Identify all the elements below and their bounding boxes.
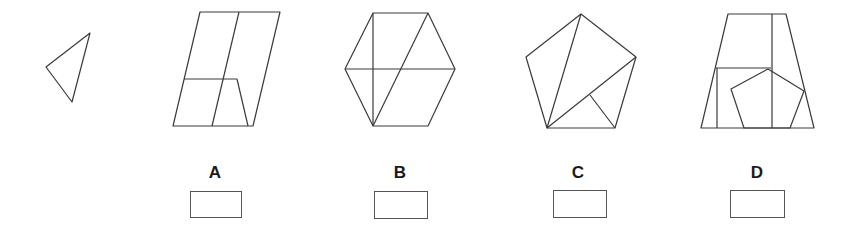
option-a-label: A (195, 163, 235, 183)
option-d-figure (701, 14, 814, 128)
option-d-answer-box[interactable] (730, 190, 785, 218)
option-a-figure (173, 12, 280, 126)
option-b-answer-box[interactable] (374, 191, 428, 219)
option-b-label: B (380, 163, 420, 183)
option-d-label: D (737, 163, 777, 183)
option-b-figure (345, 13, 455, 126)
option-a-answer-box[interactable] (190, 191, 242, 218)
reference-triangle (46, 33, 90, 102)
option-c-label: C (558, 163, 598, 183)
option-c-answer-box[interactable] (553, 190, 607, 218)
option-c-figure (526, 14, 636, 128)
